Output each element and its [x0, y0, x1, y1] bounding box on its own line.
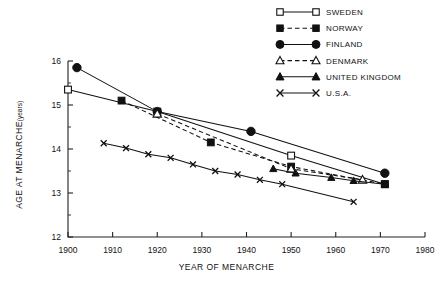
marker-open-square [313, 9, 319, 15]
marker-filled-circle [276, 40, 284, 48]
marker-filled-square [277, 25, 283, 31]
plot-area [65, 63, 389, 204]
marker-filled-square [313, 25, 319, 31]
svg-text:(years): (years) [16, 101, 24, 121]
marker-open-square [65, 86, 72, 93]
menarche-age-chart: 1213141516190019101920193019401950196019… [0, 0, 442, 285]
marker-open-square [288, 152, 295, 159]
marker-open-square [277, 9, 283, 15]
axes [68, 61, 425, 237]
svg-text:AGE AT MENARCHE: AGE AT MENARCHE [14, 121, 24, 209]
legend: SWEDENNORWAYFINLANDDENMARKUNITED KINGDOM… [276, 8, 401, 98]
x-tick-label: 1940 [237, 245, 256, 255]
x-tick-label: 1960 [326, 245, 345, 255]
legend-item[interactable]: U.S.A. [277, 89, 352, 98]
y-tick-label: 13 [52, 188, 62, 198]
legend-item[interactable]: DENMARK [276, 56, 369, 65]
y-tick-label: 16 [52, 56, 62, 66]
y-tick-label: 12 [52, 232, 62, 242]
y-axis-ticks: 1213141516 [52, 56, 73, 242]
legend-item[interactable]: FINLAND [276, 40, 363, 49]
series-line [157, 114, 362, 180]
legend-label: U.S.A. [326, 89, 351, 98]
marker-cross [190, 161, 196, 167]
x-axis-ticks: 190019101920193019401950196019701980 [59, 232, 435, 255]
legend-item[interactable]: UNITED KINGDOM [276, 73, 401, 82]
series-line [68, 90, 385, 185]
marker-filled-circle [247, 127, 255, 135]
marker-filled-circle [73, 63, 81, 71]
legend-label: SWEDEN [326, 8, 363, 17]
marker-filled-square [118, 97, 125, 104]
x-tick-label: 1900 [59, 245, 78, 255]
x-axis-title: YEAR OF MENARCHE [179, 262, 275, 272]
series-u-s-a- [101, 140, 357, 204]
legend-label: FINLAND [326, 40, 363, 49]
x-tick-label: 1920 [148, 245, 167, 255]
marker-filled-triangle [270, 165, 277, 172]
legend-label: UNITED KINGDOM [326, 73, 401, 82]
chart-canvas: 1213141516190019101920193019401950196019… [0, 0, 442, 285]
marker-filled-circle [312, 40, 320, 48]
marker-filled-square [207, 139, 214, 146]
x-tick-label: 1980 [416, 245, 435, 255]
legend-item[interactable]: NORWAY [277, 24, 364, 33]
marker-filled-circle [381, 169, 389, 177]
x-tick-label: 1970 [371, 245, 390, 255]
y-tick-label: 15 [52, 100, 62, 110]
x-tick-label: 1950 [282, 245, 301, 255]
legend-label: DENMARK [326, 57, 369, 66]
y-axis-title: AGE AT MENARCHE (years) [14, 101, 24, 209]
series-line [77, 68, 385, 174]
x-tick-label: 1910 [103, 245, 122, 255]
legend-item[interactable]: SWEDEN [277, 8, 363, 17]
x-tick-label: 1930 [192, 245, 211, 255]
legend-label: NORWAY [326, 24, 363, 33]
y-tick-label: 14 [52, 144, 62, 154]
